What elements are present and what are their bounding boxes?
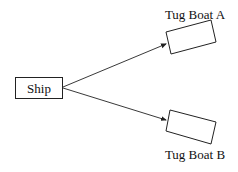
ship-node: Ship xyxy=(16,78,63,99)
tug-boat-b-label: Tug Boat B xyxy=(165,147,226,162)
tug-boat-a-node: Tug Boat A xyxy=(165,7,226,54)
tug-boat-b-node: Tug Boat B xyxy=(165,110,226,162)
ship-tug-diagram: Ship Tug Boat A Tug Boat B xyxy=(0,0,238,172)
ship-label: Ship xyxy=(27,81,51,96)
arrow-to-tug-b xyxy=(63,88,166,120)
arrow-to-tug-a xyxy=(63,44,166,87)
tug-boat-a-label: Tug Boat A xyxy=(165,7,226,22)
